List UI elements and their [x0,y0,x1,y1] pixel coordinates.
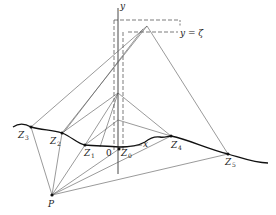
svg-text:1: 1 [91,152,95,159]
y-axis-label: y [119,1,126,11]
label-z4: Z 4 [170,140,182,151]
label-z5: Z 5 [224,157,236,168]
svg-text:Z: Z [224,157,232,167]
points [30,126,230,197]
diagram-figure: y x 0 y = ζ Z 3 Z 2 Z 1 Z 0 Z 4 Z 5 P [0,0,276,215]
origin-label: 0 [106,148,112,158]
svg-text:0: 0 [128,152,132,159]
svg-text:Z: Z [120,148,128,158]
svg-text:Z: Z [49,136,57,146]
point-z2 [61,132,64,135]
level-label: y = ζ [179,28,204,38]
lower-apex-lines [85,120,171,145]
top-apex-lines [31,26,228,154]
point-z3 [30,126,33,129]
point-p [50,193,53,196]
svg-text:5: 5 [232,161,236,168]
label-z3: Z 3 [17,130,29,141]
point-z5 [227,153,230,156]
label-p: P [47,199,55,209]
x-axis-label: x [143,139,148,149]
svg-text:3: 3 [25,134,29,141]
point-z1 [84,144,87,147]
middle-apex-lines [62,93,171,147]
label-z2: Z 2 [49,136,61,147]
svg-text:2: 2 [57,140,61,147]
svg-text:Z: Z [170,140,178,150]
label-z1: Z 1 [83,148,95,159]
svg-text:Z: Z [83,148,91,158]
svg-text:4: 4 [178,144,182,151]
point-z4 [170,135,173,138]
label-z0: Z 0 [120,148,132,159]
svg-text:Z: Z [17,130,25,140]
p-rays [31,127,228,195]
